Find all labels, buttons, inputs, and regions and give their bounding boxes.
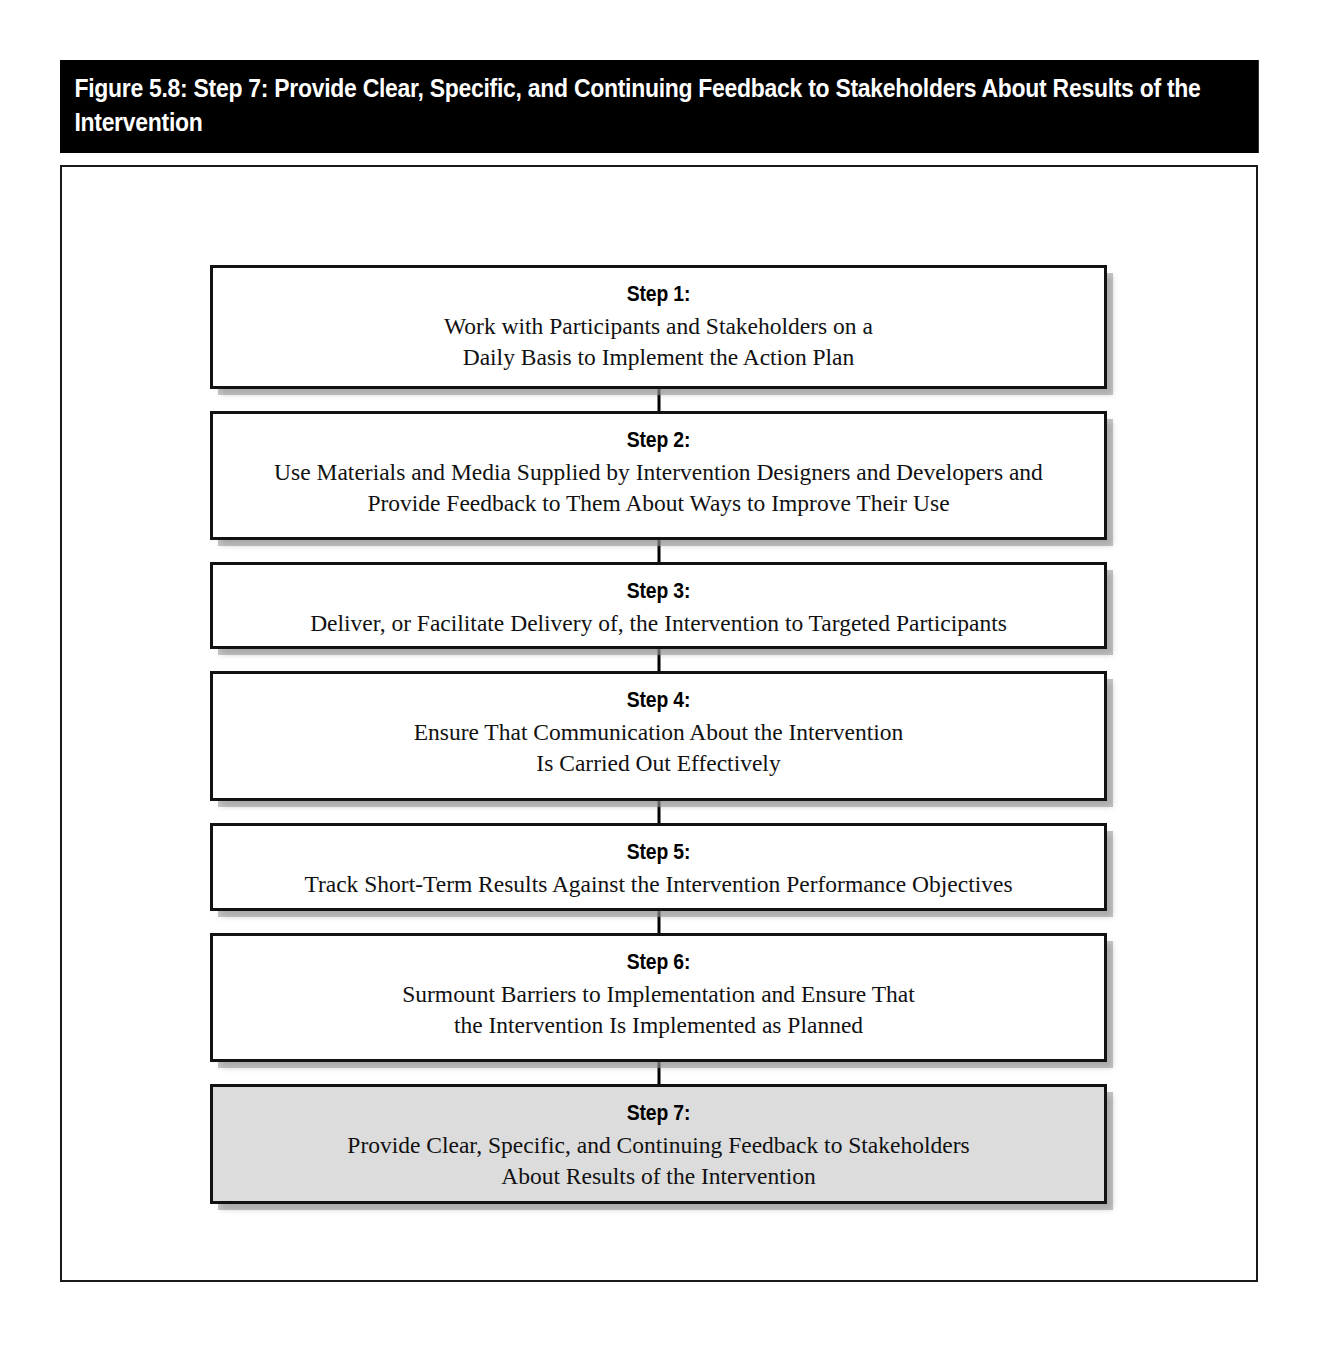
flow-step-label: Step 6: xyxy=(282,948,1034,976)
flow-step-text: Deliver, or Facilitate Delivery of, the … xyxy=(231,608,1086,639)
flow-step-label: Step 1: xyxy=(282,280,1034,308)
flow-step-text: Work with Participants and Stakeholders … xyxy=(231,311,1086,374)
figure-title-bar: Figure 5.8: Step 7: Provide Clear, Speci… xyxy=(60,60,1259,153)
flow-step-label: Step 4: xyxy=(282,686,1034,714)
flow-connector-line xyxy=(657,389,660,411)
flow-step-text: Use Materials and Media Supplied by Inte… xyxy=(231,457,1086,520)
flow-step-text: Provide Clear, Specific, and Continuing … xyxy=(231,1130,1086,1193)
flow-step-label: Step 3: xyxy=(282,577,1034,605)
figure-container: Figure 5.8: Step 7: Provide Clear, Speci… xyxy=(60,60,1258,1282)
figure-title: Figure 5.8: Step 7: Provide Clear, Speci… xyxy=(74,74,1200,136)
flow-step-box-7: Step 7:Provide Clear, Specific, and Cont… xyxy=(210,1084,1107,1204)
flow-step-text: Ensure That Communication About the Inte… xyxy=(231,717,1086,780)
flow-node: Step 1:Work with Participants and Stakeh… xyxy=(210,265,1107,389)
flow-step-box-1: Step 1:Work with Participants and Stakeh… xyxy=(210,265,1107,389)
figure-frame-body: Step 1:Work with Participants and Stakeh… xyxy=(60,165,1258,1282)
flow-connector-line xyxy=(657,911,660,933)
flow-connector-line xyxy=(657,1062,660,1084)
flow-step-label: Step 7: xyxy=(282,1099,1034,1127)
flow-step-box-4: Step 4:Ensure That Communication About t… xyxy=(210,671,1107,801)
flow-step-text: Surmount Barriers to Implementation and … xyxy=(231,979,1086,1042)
flow-connector-line xyxy=(657,801,660,823)
flow-connector-line xyxy=(657,649,660,671)
flow-node: Step 2:Use Materials and Media Supplied … xyxy=(210,411,1107,540)
flow-step-label: Step 5: xyxy=(282,838,1034,866)
flow-node: Step 5:Track Short-Term Results Against … xyxy=(210,823,1107,911)
flow-step-box-6: Step 6:Surmount Barriers to Implementati… xyxy=(210,933,1107,1062)
flow-step-box-3: Step 3:Deliver, or Facilitate Delivery o… xyxy=(210,562,1107,649)
flow-node: Step 7:Provide Clear, Specific, and Cont… xyxy=(210,1084,1107,1204)
flow-node: Step 3:Deliver, or Facilitate Delivery o… xyxy=(210,562,1107,649)
flow-node: Step 6:Surmount Barriers to Implementati… xyxy=(210,933,1107,1062)
flow-step-box-2: Step 2:Use Materials and Media Supplied … xyxy=(210,411,1107,540)
flow-step-text: Track Short-Term Results Against the Int… xyxy=(231,869,1086,900)
flow-node: Step 4:Ensure That Communication About t… xyxy=(210,671,1107,801)
flow-step-box-5: Step 5:Track Short-Term Results Against … xyxy=(210,823,1107,911)
flow-connector-line xyxy=(657,540,660,562)
flow-step-label: Step 2: xyxy=(282,426,1034,454)
